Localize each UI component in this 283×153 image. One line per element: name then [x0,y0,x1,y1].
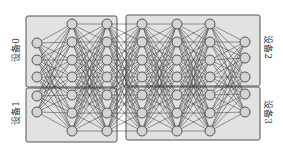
neuron-node-layer-3 [137,37,147,47]
neuron-node-layer-5 [205,126,215,136]
neuron-node-layer-2 [102,72,112,82]
neuron-node-layer-2 [102,55,112,65]
neuron-node-layer-3 [137,126,147,136]
neuron-node-layer-2 [102,126,112,136]
neuron-node-layer-1 [67,72,77,82]
neuron-node-layer-4 [172,55,182,65]
neuron-node-layer-1 [67,108,77,118]
neuron-node-layer-4 [172,108,182,118]
neuron-node-layer-5 [205,72,215,82]
neuron-node-layer-2 [102,90,112,100]
neuron-node-layer-4 [172,37,182,47]
neuron-node-layer-0 [32,107,42,117]
neuron-node-layer-4 [172,126,182,136]
neuron-node-layer-6 [240,53,250,63]
neuron-node-layer-2 [102,37,112,47]
neuron-node-layer-1 [67,126,77,136]
neuron-node-layer-6 [240,37,250,47]
neuron-node-layer-0 [32,91,42,101]
neuron-node-layer-1 [67,55,77,65]
device-label-2: 设备2 [262,35,275,59]
neural-network-partition-diagram [0,0,283,153]
neuron-node-layer-5 [205,108,215,118]
neuron-node-layer-2 [102,108,112,118]
neuron-node-layer-5 [205,55,215,65]
neuron-node-layer-1 [67,19,77,29]
neuron-node-layer-3 [137,55,147,65]
neuron-node-layer-1 [67,90,77,100]
neuron-node-layer-4 [172,19,182,29]
neuron-node-layer-2 [102,19,112,29]
neuron-node-layer-1 [67,37,77,47]
neuron-node-layer-3 [137,108,147,118]
neuron-node-layer-5 [205,19,215,29]
neuron-node-layer-5 [205,90,215,100]
neuron-node-layer-6 [240,89,250,99]
device-label-3: 设备3 [262,100,275,124]
neuron-node-layer-3 [137,90,147,100]
neuron-node-layer-6 [240,72,250,82]
neuron-node-layer-4 [172,90,182,100]
neuron-node-layer-4 [172,72,182,82]
neuron-node-layer-3 [137,72,147,82]
device-label-1: 设备1 [9,101,22,125]
neuron-node-layer-3 [137,19,147,29]
device-label-0: 设备0 [9,38,22,62]
neuron-node-layer-0 [32,38,42,48]
neuron-node-layer-0 [32,55,42,65]
neuron-node-layer-0 [32,72,42,82]
neuron-node-layer-6 [240,107,250,117]
neuron-node-layer-5 [205,37,215,47]
